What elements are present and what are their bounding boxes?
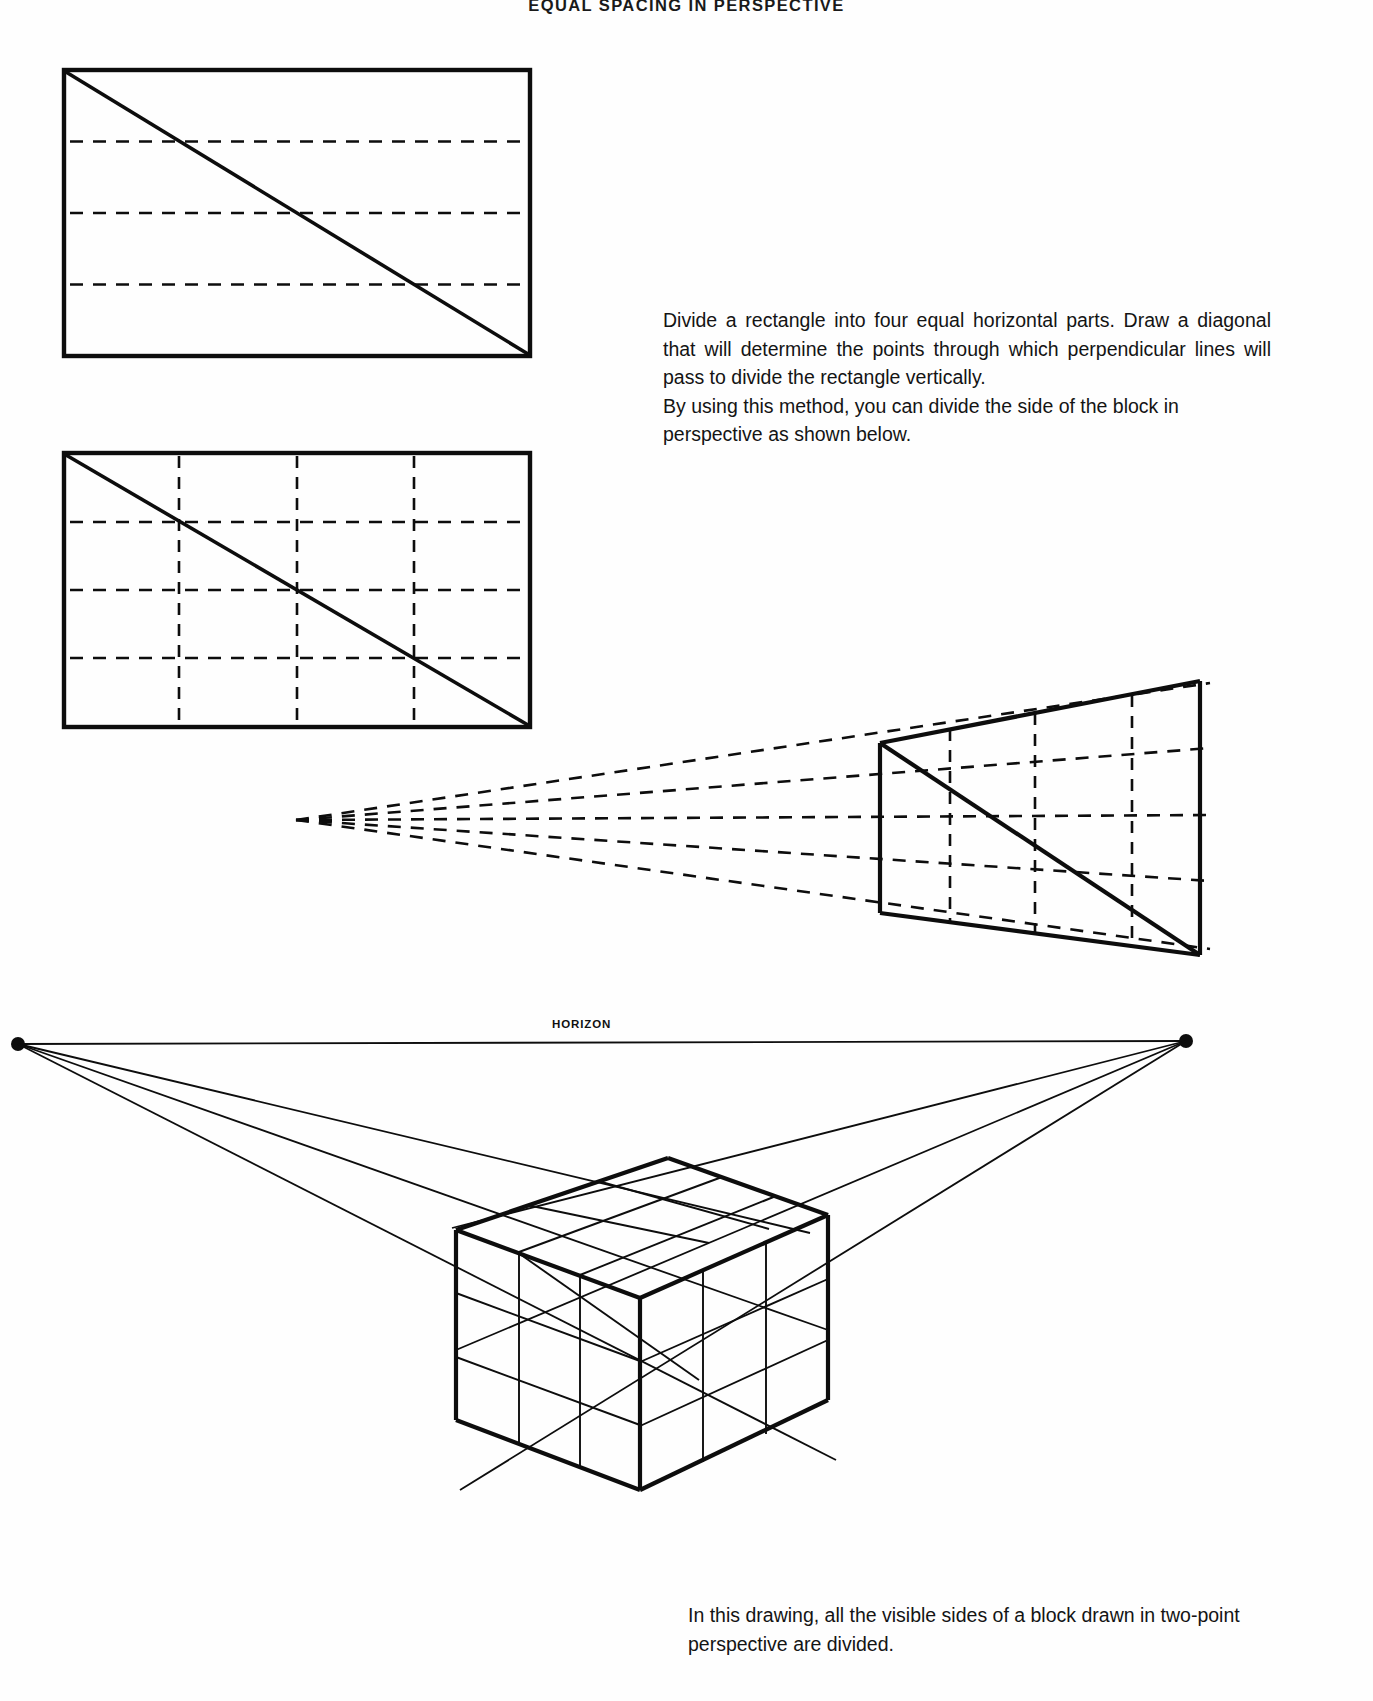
top-grid-a1 (517, 1252, 699, 1380)
top-edge-front-right (640, 1215, 828, 1298)
top-grid-u1 (527, 1205, 709, 1243)
figure3-ray-bottom (296, 820, 1210, 949)
top-grid-v2 (580, 1196, 776, 1275)
page-title-text: EQUAL SPACING IN PERSPECTIVE (528, 0, 844, 14)
figure-perspective-plane (280, 665, 1220, 975)
top-grid-u2 (598, 1181, 769, 1229)
figure3-ray-3 (296, 815, 1210, 820)
figure3-diagonal (880, 743, 1200, 955)
horizon-line (18, 1041, 1186, 1044)
block-top-face-grid (517, 1252, 699, 1380)
left-face-edge-bottom (456, 1420, 640, 1490)
figure3-ray-2 (296, 748, 1210, 820)
figure-two-point-perspective-block (0, 1030, 1373, 1590)
block-rays-left-vp (18, 1044, 836, 1460)
block-left-face (456, 1230, 640, 1490)
horizon-label: HORIZON (552, 1018, 611, 1030)
top-edge-back-left (456, 1158, 668, 1230)
left-face-h2 (456, 1357, 640, 1425)
left-face-h1 (456, 1293, 640, 1361)
top-edge-front-left (456, 1230, 640, 1298)
ray-right-vp-a (452, 1041, 1186, 1228)
page-title: EQUAL SPACING IN PERSPECTIVE (0, 0, 1373, 15)
bottom-caption-text: In this drawing, all the visible sides o… (688, 1601, 1276, 1658)
ray-right-vp-c (460, 1041, 1186, 1490)
ray-left-vp-a (18, 1044, 810, 1233)
intro-text-block: Divide a rectangle into four equal horiz… (663, 306, 1271, 449)
figure3-bottom-edge (880, 913, 1200, 955)
intro-paragraph-2: By using this method, you can divide the… (663, 392, 1271, 449)
figure1-diagonal (66, 72, 528, 354)
figure3-convergence-rays (296, 683, 1210, 949)
ray-right-vp-b (456, 1041, 1186, 1350)
figure3-vertical-dividers (950, 695, 1132, 948)
figure-rectangle-horizontal-divisions (62, 68, 532, 358)
figure3-top-edge (880, 681, 1200, 743)
figure3-quad-outline (880, 681, 1200, 955)
bottom-caption-block: In this drawing, all the visible sides o… (688, 1601, 1276, 1658)
page-canvas: EQUAL SPACING IN PERSPECTIVE (0, 0, 1373, 1701)
block-rays-right-vp (452, 1041, 1186, 1490)
ray-left-vp-c (18, 1044, 836, 1460)
intro-paragraph-1: Divide a rectangle into four equal horiz… (663, 306, 1271, 392)
ray-left-vp-b (18, 1044, 828, 1330)
